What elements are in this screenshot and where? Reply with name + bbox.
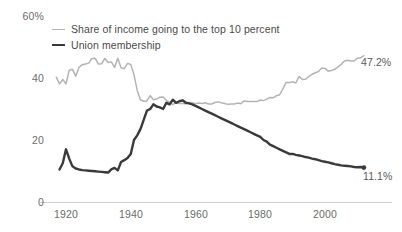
legend-label-income: Share of income going to the top 10 perc… bbox=[71, 23, 280, 35]
legend-item-income: Share of income going to the top 10 perc… bbox=[52, 22, 280, 36]
x-tick-1940: 1940 bbox=[106, 208, 156, 220]
legend-label-union: Union membership bbox=[71, 39, 161, 51]
y-tick-0: 0 bbox=[2, 196, 44, 208]
x-tick-1920: 1920 bbox=[41, 208, 91, 220]
x-tick-1960: 1960 bbox=[171, 208, 221, 220]
end-label-union: 11.1% bbox=[363, 170, 393, 182]
chart-legend: Share of income going to the top 10 perc… bbox=[52, 22, 280, 54]
legend-item-union: Union membership bbox=[52, 38, 280, 52]
series-line-income bbox=[56, 56, 364, 105]
legend-swatch-income-icon bbox=[52, 29, 65, 30]
y-tick-60: 60% bbox=[2, 10, 44, 22]
end-label-income: 47.2% bbox=[361, 56, 391, 68]
income-union-line-chart: 60% 40 20 0 1920 1940 1960 1980 2000 Sha… bbox=[0, 0, 402, 232]
x-tick-1980: 1980 bbox=[235, 208, 285, 220]
series-line-union bbox=[60, 100, 364, 173]
x-tick-2000: 2000 bbox=[300, 208, 350, 220]
legend-swatch-union-icon bbox=[52, 44, 65, 46]
y-tick-20: 20 bbox=[2, 134, 44, 146]
y-tick-40: 40 bbox=[2, 72, 44, 84]
